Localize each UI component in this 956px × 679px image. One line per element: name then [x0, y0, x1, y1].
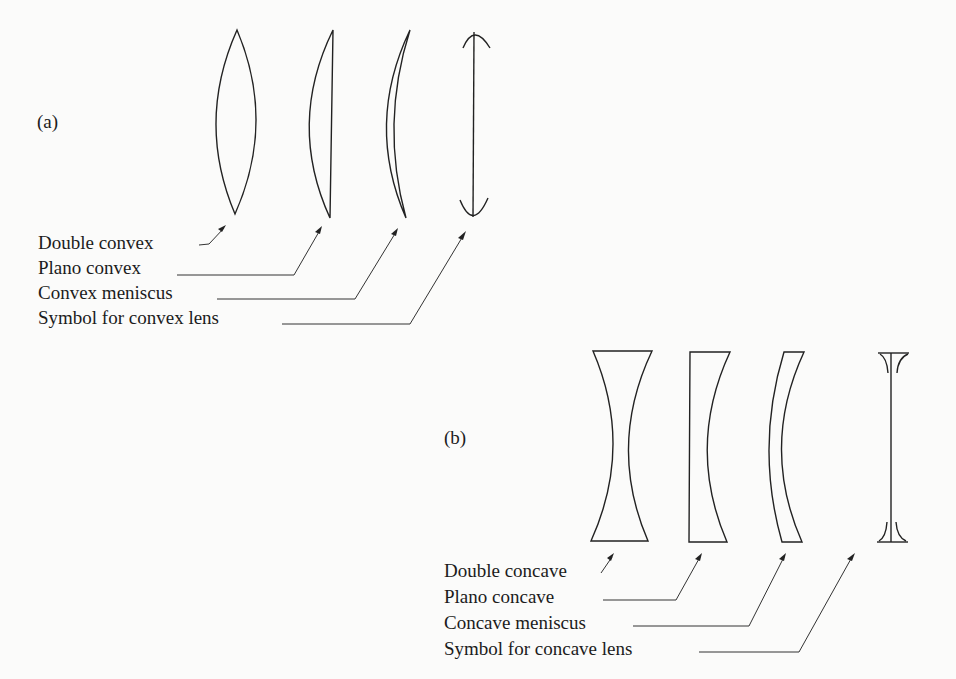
leader-convex-meniscus	[217, 228, 398, 299]
lens-types-diagram: (a) Double convex Plano convex Convex me…	[0, 0, 956, 679]
leader-double-concave	[601, 553, 614, 573]
diagram-canvas: (a) Double convex Plano convex Convex me…	[0, 0, 956, 679]
label-double-convex: Double convex	[38, 232, 154, 253]
double-concave-lens	[591, 351, 652, 541]
double-convex-lens	[216, 30, 256, 214]
panel-a: (a) Double convex Plano convex Convex me…	[37, 30, 490, 328]
plano-convex-lens	[309, 30, 333, 218]
panel-a-tag: (a)	[37, 111, 58, 133]
label-convex-meniscus: Convex meniscus	[38, 282, 173, 303]
leader-plano-convex	[177, 226, 322, 275]
concave-lens-symbol	[877, 353, 909, 542]
leader-plano-concave	[603, 553, 702, 600]
panel-b: (b) Double concave Plano concave Concave…	[444, 351, 909, 659]
concave-meniscus-lens	[769, 352, 804, 542]
label-convex-symbol: Symbol for convex lens	[38, 307, 219, 328]
convex-meniscus-lens	[386, 30, 410, 218]
label-plano-concave: Plano concave	[444, 586, 554, 607]
label-plano-convex: Plano convex	[38, 257, 141, 278]
leader-convex-symbol	[282, 231, 466, 324]
label-concave-meniscus: Concave meniscus	[444, 612, 586, 633]
label-double-concave: Double concave	[444, 560, 567, 581]
leader-concave-meniscus	[633, 553, 786, 626]
convex-lens-symbol	[460, 32, 490, 217]
leader-double-convex	[199, 225, 226, 245]
plano-concave-lens	[689, 352, 730, 542]
panel-b-tag: (b)	[444, 427, 466, 449]
leader-concave-symbol	[699, 553, 855, 652]
label-concave-symbol: Symbol for concave lens	[444, 638, 632, 659]
